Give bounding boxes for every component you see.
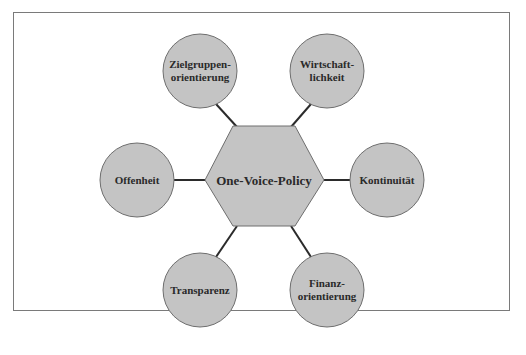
node-label-zielgruppen: Zielgruppen- orientierung — [169, 58, 231, 84]
node-label-finanz: Finanz- orientierung — [298, 277, 357, 303]
node-label-offenheit: Offenheit — [115, 174, 160, 187]
node-label-line: orientierung — [298, 290, 357, 303]
node-label-kontinuitaet: Kontinuität — [359, 174, 414, 187]
node-label-line: Zielgruppen- — [169, 58, 231, 71]
connector-transparenz — [216, 226, 237, 257]
node-label-transparenz: Transparenz — [170, 284, 230, 297]
center-label: One-Voice-Policy — [216, 174, 312, 187]
node-label-wirtschaft: Wirtschaft- lichkeit — [300, 58, 354, 84]
connector-zielgruppen — [216, 104, 237, 127]
node-label-line: orientierung — [169, 71, 231, 84]
node-label-line: Wirtschaft- — [300, 58, 354, 71]
node-label-line: lichkeit — [300, 71, 354, 84]
connector-finanz — [291, 226, 311, 257]
node-label-line: Finanz- — [298, 277, 357, 290]
connector-wirtschaft — [291, 104, 311, 127]
